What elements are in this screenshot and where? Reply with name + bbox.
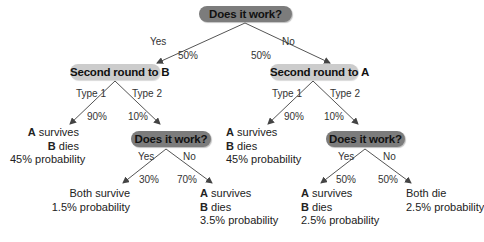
left-decision-no-prob: 70% (177, 174, 197, 185)
root-no-prob: 50% (251, 50, 271, 61)
outcome-right-no: Both die 2.5% probability (406, 187, 484, 214)
second-round-to-b-node: Second round to B (70, 64, 160, 80)
outcome-left-yes: Both survive 1.5% probability (50, 187, 130, 214)
right-type2-label: Type 2 (330, 88, 360, 99)
outcome-right-type1: A survives B dies 45% probability (226, 126, 301, 167)
root-decision-node: Does it work? (199, 6, 292, 22)
right-decision-node: Does it work? (326, 131, 405, 147)
left-decision-no-label: No (183, 151, 196, 162)
right-decision-no-label: No (383, 151, 396, 162)
root-yes-label: Yes (150, 36, 166, 47)
left-type2-label: Type 2 (132, 88, 162, 99)
left-decision-yes-label: Yes (138, 151, 154, 162)
right-type1-label: Type 1 (272, 88, 302, 99)
left-decision-yes-prob: 30% (139, 174, 159, 185)
root-yes-prob: 50% (178, 50, 198, 61)
right-type1-prob: 90% (284, 111, 304, 122)
root-no-label: No (282, 36, 295, 47)
outcome-right-yes: A survives B dies 2.5% probability (301, 187, 379, 228)
left-type1-prob: 90% (87, 111, 107, 122)
outcome-left-type1: A survives B dies 45% probability (10, 126, 79, 167)
left-type2-prob: 10% (128, 111, 148, 122)
second-round-to-a-node: Second round to A (270, 64, 358, 80)
right-decision-yes-label: Yes (338, 151, 354, 162)
outcome-left-no: A survives B dies 3.5% probability (200, 187, 278, 228)
right-decision-yes-prob: 50% (336, 174, 356, 185)
left-decision-node: Does it work? (131, 131, 211, 147)
left-type1-label: Type 1 (76, 88, 106, 99)
right-type2-prob: 10% (324, 111, 344, 122)
right-decision-no-prob: 50% (378, 174, 398, 185)
